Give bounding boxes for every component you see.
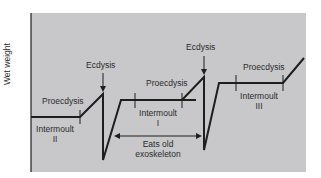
y-axis-label: Wet weight — [2, 43, 12, 85]
proecdysis-label-3: Proecdysis — [243, 62, 285, 72]
eats-line2: exoskeleton — [128, 149, 188, 159]
eats-line1: Eats old — [128, 139, 188, 149]
intermoult-i-label: Intermoult I — [134, 108, 182, 128]
intermoult-ii-label: Intermoult II — [32, 124, 78, 144]
ecdysis-label-1: Ecdysis — [86, 60, 115, 70]
proecdysis-label-1: Proecdysis — [42, 96, 84, 106]
proecdysis-label-2: Proecdysis — [146, 78, 188, 88]
intermoult-iii-line1: Intermoult — [235, 91, 283, 101]
intermoult-ii-line2: II — [32, 134, 78, 144]
intermoult-i-line2: I — [134, 118, 182, 128]
intermoult-iii-label: Intermoult III — [235, 91, 283, 111]
intermoult-ii-line1: Intermoult — [32, 124, 78, 134]
intermoult-iii-line2: III — [235, 101, 283, 111]
intermoult-i-line1: Intermoult — [134, 108, 182, 118]
ecdysis-label-2: Ecdysis — [186, 42, 215, 52]
eats-old-exoskeleton-label: Eats old exoskeleton — [128, 139, 188, 159]
